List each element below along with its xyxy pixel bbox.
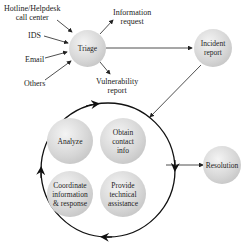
input-others-label: Others	[24, 79, 45, 88]
analyze-label: Analyze	[58, 137, 83, 146]
resolution-node: Resolution	[203, 146, 241, 184]
input-ids-label: IDS	[28, 31, 41, 40]
obtain-contact-info-node: Obtain contact info	[100, 118, 146, 164]
resolution-label: Resolution	[206, 161, 239, 170]
vulnerability-report-label: Vulnerability report	[96, 77, 138, 95]
input-email-label: Email	[25, 55, 44, 64]
coordinate-node: Coordinate information & response	[47, 171, 93, 217]
provide-assistance-label: Provide technical assistance	[108, 181, 138, 208]
incident-report-label: Incident report	[201, 39, 226, 57]
triage-label: Triage	[78, 44, 97, 53]
obtain-contact-info-label: Obtain contact info	[112, 128, 134, 155]
coordinate-label: Coordinate information & response	[52, 181, 87, 208]
analyze-node: Analyze	[47, 118, 93, 164]
triage-node: Triage	[69, 30, 106, 67]
provide-assistance-node: Provide technical assistance	[100, 171, 146, 217]
information-request-label: Information request	[113, 8, 151, 26]
input-hotline-label: Hotline/Helpdesk call center	[4, 4, 60, 22]
incident-report-node: Incident report	[194, 29, 232, 67]
